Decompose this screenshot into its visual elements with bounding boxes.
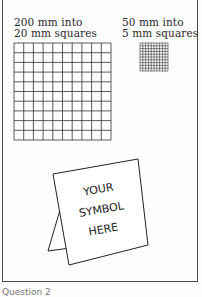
figure-caption: Question 2: [2, 287, 51, 297]
small-grid: [140, 43, 168, 71]
large-grid: [14, 43, 111, 140]
